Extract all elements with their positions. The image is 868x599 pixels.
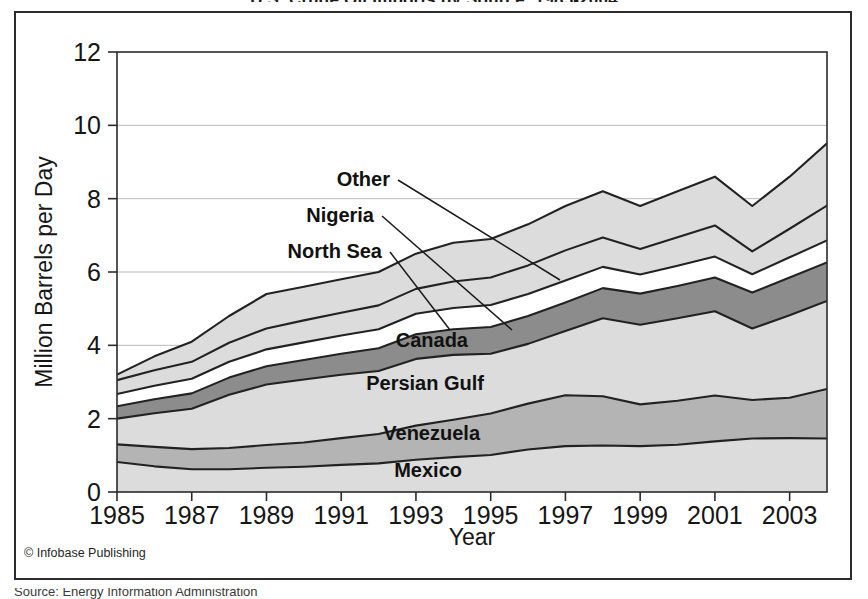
area-chart: 024681012 198519871989199119931995199719… bbox=[0, 0, 868, 599]
figure-container: U.S. Crude Oil Imports by Source, 1985-2… bbox=[0, 0, 868, 599]
x-tick-label: 1989 bbox=[239, 501, 295, 529]
y-tick-label: 4 bbox=[87, 331, 101, 359]
series-label-persian-gulf: Persian Gulf bbox=[366, 372, 484, 394]
y-tick-label: 2 bbox=[87, 405, 101, 433]
y-tick-label: 6 bbox=[87, 258, 101, 286]
source-note: Source: Energy Information Administratio… bbox=[14, 588, 854, 599]
series-label-venezuela: Venezuela bbox=[383, 422, 481, 444]
series-label-north-sea: North Sea bbox=[288, 240, 383, 262]
x-axis-title: Year bbox=[449, 524, 496, 550]
x-tick-label: 1999 bbox=[612, 501, 668, 529]
series-label-other: Other bbox=[337, 168, 391, 190]
y-tick-label: 8 bbox=[87, 185, 101, 213]
x-tick-label: 1991 bbox=[313, 501, 369, 529]
x-tick-label: 2001 bbox=[687, 501, 743, 529]
copyright-notice: © Infobase Publishing bbox=[24, 546, 146, 560]
series-label-mexico: Mexico bbox=[394, 459, 462, 481]
x-tick-label: 2003 bbox=[762, 501, 818, 529]
y-tick-label: 12 bbox=[73, 38, 101, 66]
x-tick-label: 1997 bbox=[538, 501, 594, 529]
y-axis-title: Million Barrels per Day bbox=[31, 156, 57, 388]
x-tick-label: 1987 bbox=[164, 501, 220, 529]
x-tick-label: 1993 bbox=[388, 501, 444, 529]
series-label-nigeria: Nigeria bbox=[306, 204, 375, 226]
x-tick-label: 1985 bbox=[89, 501, 145, 529]
y-axis-ticks: 024681012 bbox=[73, 38, 117, 506]
y-tick-label: 10 bbox=[73, 111, 101, 139]
series-label-canada: Canada bbox=[396, 329, 469, 351]
